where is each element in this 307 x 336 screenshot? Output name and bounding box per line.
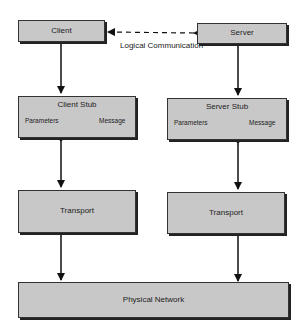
- client-stub-parameters: Parameters: [25, 117, 59, 124]
- physical-network-box: Physical Network: [18, 282, 289, 318]
- server-stub-parameters: Parameters: [174, 119, 208, 126]
- client-stub-box: Client Stub Parameters Message: [18, 96, 136, 138]
- server-label: Server: [198, 28, 286, 37]
- client-transport-label: Transport: [19, 206, 135, 215]
- client-stub-title: Client Stub: [19, 100, 135, 109]
- client-transport-box: Transport: [18, 190, 136, 233]
- server-transport-label: Transport: [168, 208, 284, 217]
- server-stub-title: Server Stub: [168, 102, 286, 111]
- server-box: Server: [197, 23, 287, 44]
- server-stub-box: Server Stub Parameters Message: [167, 98, 287, 140]
- physical-network-label: Physical Network: [19, 295, 288, 304]
- logical-communication-label: Logical Communication: [120, 41, 203, 50]
- server-stub-message: Message: [249, 119, 275, 126]
- client-box: Client: [18, 20, 105, 42]
- client-stub-message: Message: [99, 117, 125, 124]
- client-label: Client: [19, 26, 104, 35]
- server-transport-box: Transport: [167, 192, 285, 234]
